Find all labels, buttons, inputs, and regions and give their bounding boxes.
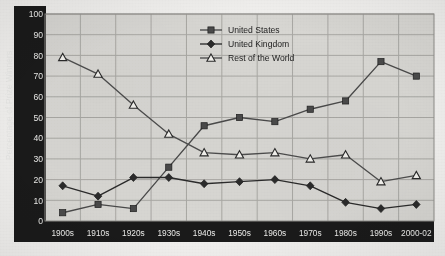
x-tick-label: 1950s <box>228 228 251 238</box>
marker-square <box>307 106 313 112</box>
x-tick-label: 1940s <box>193 228 216 238</box>
marker-square <box>272 119 278 125</box>
legend-label: Rest of the World <box>228 53 294 63</box>
legend-label: United States <box>228 25 280 35</box>
marker-square <box>130 205 136 211</box>
x-tick-label: 1900s <box>51 228 74 238</box>
legend-label: United Kingdom <box>228 39 289 49</box>
marker-square <box>342 98 348 104</box>
marker-square <box>236 114 242 120</box>
y-tick-label: 50 <box>33 113 43 123</box>
marker-square <box>166 164 172 170</box>
line-chart: 0102030405060708090100 1900s1910s1920s19… <box>0 0 445 256</box>
x-tick-label: 1980s <box>334 228 357 238</box>
marker-square <box>201 123 207 129</box>
y-tick-label: 100 <box>29 9 44 19</box>
marker-square <box>95 201 101 207</box>
y-tick-label: 0 <box>38 216 43 226</box>
y-tick-label: 10 <box>33 196 43 206</box>
y-tick-label: 20 <box>33 175 43 185</box>
x-tick-label: 1930s <box>157 228 180 238</box>
y-tick-label: 70 <box>33 71 43 81</box>
y-tick-label: 30 <box>33 154 43 164</box>
y-tick-label: 80 <box>33 51 43 61</box>
x-axis-tick-labels: 1900s1910s1920s1930s1940s1950s1960s1970s… <box>51 228 432 238</box>
marker-square <box>60 210 66 216</box>
chart-figure: 0102030405060708090100 1900s1910s1920s19… <box>0 0 445 256</box>
x-tick-label: 1920s <box>122 228 145 238</box>
y-tick-label: 40 <box>33 133 43 143</box>
marker-square <box>208 27 214 33</box>
x-tick-label: 1910s <box>87 228 110 238</box>
x-tick-label: 1990s <box>370 228 393 238</box>
x-tick-label: 1970s <box>299 228 322 238</box>
marker-square <box>413 73 419 79</box>
y-axis-title: Percentage of Prize Winners <box>4 51 14 160</box>
x-tick-label: 1960s <box>264 228 287 238</box>
y-tick-label: 60 <box>33 92 43 102</box>
marker-square <box>378 59 384 65</box>
x-tick-label: 2000-02 <box>401 228 432 238</box>
y-tick-label: 90 <box>33 30 43 40</box>
